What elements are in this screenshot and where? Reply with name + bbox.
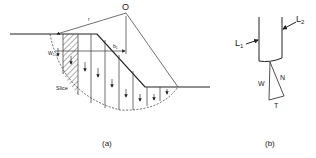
figure-a: O r b1 W1 Slice (a) [10, 2, 210, 148]
caption-b: (b) [265, 139, 275, 148]
figure-b: L1 L2 W N T (b) [235, 14, 305, 148]
t-label: T [274, 102, 279, 109]
force-l2-arrow [283, 22, 296, 29]
lever-arm-label: b1 [113, 43, 118, 50]
single-slice [259, 17, 282, 62]
slope-stability-diagram: O r b1 W1 Slice (a) L1 L2 W N T (b) [0, 0, 316, 158]
slice-label: Slice [56, 85, 68, 91]
force-l1-arrow [246, 40, 258, 44]
ground-surface [10, 34, 210, 87]
center-label: O [122, 2, 129, 12]
caption-a: (a) [102, 139, 112, 148]
force-triangle [269, 62, 284, 100]
l1-label: L1 [235, 38, 244, 49]
radius-line-right [126, 13, 178, 87]
n-label: N [280, 74, 285, 81]
radius-label: r [88, 16, 90, 22]
weight-label: W1 [48, 50, 55, 57]
w-label: W [258, 80, 265, 87]
radius-line-left [57, 13, 126, 34]
l2-label: L2 [296, 14, 305, 25]
